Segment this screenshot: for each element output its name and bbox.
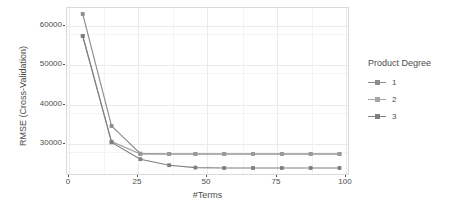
data-point: [251, 152, 255, 156]
series-line-3: [83, 36, 340, 168]
data-point: [338, 152, 342, 156]
data-point: [309, 166, 313, 170]
y-axis-label: RMSE (Cross-Validation): [18, 11, 28, 181]
data-point: [280, 152, 284, 156]
series-layer: [67, 8, 350, 176]
data-point: [194, 152, 198, 156]
data-point: [338, 166, 342, 170]
chart-container: 30000 40000 50000 60000 RMSE (Cross-Vali…: [0, 0, 460, 213]
y-tick-mark-40000: [63, 104, 65, 105]
y-tick-label-40000: 40000: [2, 100, 62, 108]
data-point: [280, 166, 284, 170]
plot-panel: [66, 7, 349, 175]
series-1: [81, 12, 342, 156]
data-point: [167, 152, 171, 156]
x-tick-label-75: 75: [256, 178, 296, 186]
legend-item-1[interactable]: 1: [368, 76, 458, 90]
y-tick-label-50000: 50000: [2, 60, 62, 68]
series-3: [81, 34, 342, 170]
series-2: [81, 34, 342, 156]
legend-key-icon-1: [368, 76, 386, 90]
data-point: [81, 12, 85, 16]
y-tick-label-30000: 30000: [2, 139, 62, 147]
y-tick-mark-50000: [63, 64, 65, 65]
legend-label-3: 3: [392, 113, 396, 121]
data-point: [222, 152, 226, 156]
x-axis-label: #Terms: [66, 190, 349, 200]
legend-item-2[interactable]: 2: [368, 93, 458, 107]
x-tick-label-50: 50: [186, 178, 226, 186]
legend-key-icon-3: [368, 110, 386, 124]
data-point: [81, 34, 85, 38]
y-tick-mark-60000: [63, 25, 65, 26]
data-point: [167, 163, 171, 167]
data-point: [251, 166, 255, 170]
data-point: [194, 166, 198, 170]
data-point: [110, 124, 114, 128]
series-line-1: [83, 14, 340, 154]
data-point: [138, 152, 142, 156]
legend-title: Product Degree: [368, 58, 458, 68]
legend-item-3[interactable]: 3: [368, 110, 458, 124]
data-point: [309, 152, 313, 156]
x-tick-label-0: 0: [48, 178, 88, 186]
data-point: [110, 141, 114, 145]
legend: Product Degree 1 2 3: [368, 58, 458, 127]
x-tick-label-25: 25: [117, 178, 157, 186]
legend-label-2: 2: [392, 96, 396, 104]
series-line-2: [83, 36, 340, 154]
data-point: [138, 157, 142, 161]
y-tick-label-60000: 60000: [2, 21, 62, 29]
legend-key-icon-2: [368, 93, 386, 107]
data-point: [222, 166, 226, 170]
x-tick-label-100: 100: [325, 178, 365, 186]
y-tick-mark-30000: [63, 143, 65, 144]
legend-label-1: 1: [392, 79, 396, 87]
